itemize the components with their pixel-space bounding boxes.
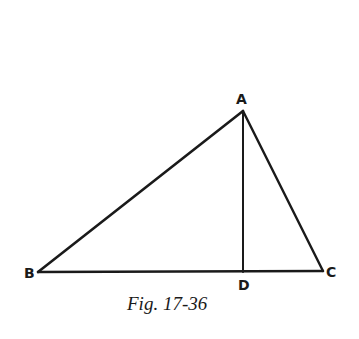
vertex-label-b: B: [24, 265, 35, 281]
vertex-label-c: C: [326, 264, 336, 280]
figure-caption: Fig. 17-36: [126, 293, 208, 314]
figure-canvas: A B C D Fig. 17-36: [0, 0, 359, 339]
segment-ab: [38, 111, 243, 272]
segment-bc: [38, 271, 323, 272]
vertex-label-a: A: [236, 91, 247, 107]
segment-ac: [243, 111, 323, 271]
triangle-diagram: A B C D Fig. 17-36: [0, 0, 359, 339]
vertex-label-d: D: [238, 277, 250, 293]
